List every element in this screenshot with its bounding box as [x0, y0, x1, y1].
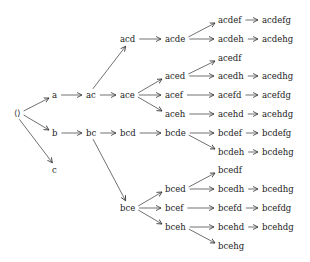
node-bcefdg: bcefdg	[262, 204, 291, 213]
node-acedh: acedh	[218, 72, 244, 81]
node-bcedf: bcedf	[218, 166, 242, 175]
edge-root-to-c	[19, 119, 52, 163]
edge-ac-to-acd	[93, 46, 126, 89]
node-acefdg: acefdg	[262, 91, 291, 100]
node-bce: bce	[120, 204, 135, 213]
node-acedf: acedf	[218, 54, 241, 63]
node-ac: ac	[86, 91, 96, 100]
node-acehdg: acehdg	[262, 110, 293, 119]
node-aceh: aceh	[165, 110, 185, 119]
node-acdefg: acdefg	[262, 16, 291, 25]
edge-root-to-a	[24, 98, 49, 111]
node-acd: acd	[120, 35, 135, 44]
node-acdehg: acdehg	[262, 35, 293, 44]
node-acef: acef	[165, 91, 183, 100]
node-acedhg: acedhg	[262, 72, 293, 81]
edge-aced-to-acedf	[188, 61, 215, 74]
node-bcehdg: bcehdg	[262, 223, 294, 232]
node-acehd: acehd	[218, 110, 244, 119]
node-acdeh: acdeh	[218, 35, 244, 44]
node-bcdeh: bcdeh	[218, 148, 244, 157]
edge-ace-to-aced	[138, 79, 162, 93]
node-bcefd: bcefd	[218, 204, 242, 213]
node-bcehd: bcehd	[218, 223, 244, 232]
node-acdef: acdef	[218, 16, 241, 25]
node-bcde: bcde	[165, 129, 186, 138]
node-a: a	[52, 91, 57, 100]
node-ace: ace	[120, 91, 135, 100]
edge-bcde-to-bcdeh	[189, 135, 215, 149]
edge-bceh-to-bcehg	[189, 229, 215, 243]
edge-bc-to-bce	[93, 139, 126, 201]
edge-bce-to-bceh	[138, 210, 162, 224]
node-c: c	[52, 166, 57, 175]
node-bced: bced	[165, 185, 186, 194]
node-bcef: bcef	[165, 204, 183, 213]
node-acde: acde	[165, 35, 185, 44]
node-b: b	[52, 129, 57, 138]
edge-ace-to-aceh	[138, 97, 162, 111]
node-bcd: bcd	[120, 129, 136, 138]
node-acefd: acefd	[218, 91, 241, 100]
edge-bced-to-bcedf	[189, 173, 215, 187]
node-bc: bc	[86, 129, 96, 138]
node-bceh: bceh	[165, 223, 186, 232]
edge-root-to-b	[24, 115, 49, 130]
edge-acde-to-acdef	[188, 23, 215, 37]
node-aced: aced	[165, 72, 185, 81]
node-bcehg: bcehg	[218, 242, 244, 251]
node-bcedhg: bcedhg	[262, 185, 294, 194]
node-bcdef: bcdef	[218, 129, 242, 138]
node-bcdefg: bcdefg	[262, 129, 291, 138]
node-root: ⟨⟩	[14, 109, 21, 118]
node-bcdehg: bcdehg	[262, 148, 294, 157]
edge-bce-to-bced	[138, 192, 162, 206]
tree-diagram: ⟨⟩abcacbcacdacebcdbceacdeacedacefacehbcd…	[0, 0, 310, 262]
node-bcedh: bcedh	[218, 185, 244, 194]
